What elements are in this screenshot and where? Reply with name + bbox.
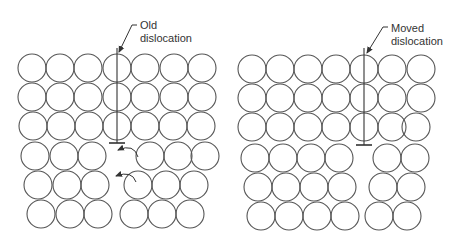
atom-circle — [322, 113, 350, 141]
atom-circle — [275, 202, 303, 230]
atom-circle — [373, 144, 401, 172]
atom-circle — [393, 202, 421, 230]
atom-circle — [244, 173, 272, 201]
atom-circle — [378, 84, 406, 112]
atom-circle — [56, 200, 84, 228]
atom-circle — [378, 55, 406, 83]
atom-circle — [269, 144, 297, 172]
atom-circle — [18, 83, 46, 111]
atom-circle — [294, 113, 322, 141]
atom-circle — [131, 83, 159, 111]
atom-circle — [148, 200, 176, 228]
atom-circle — [74, 83, 102, 111]
atom-circle — [328, 173, 356, 201]
atom-circle — [136, 142, 164, 170]
old-label-line1: Old — [140, 19, 192, 32]
atom-circle — [46, 83, 74, 111]
leader-arrow-icon — [367, 27, 388, 53]
atom-circle — [164, 142, 192, 170]
atom-circle — [27, 200, 55, 228]
atom-circle — [241, 144, 269, 172]
atom-circle — [238, 84, 266, 112]
atom-circle — [84, 200, 112, 228]
atom-circle — [160, 83, 188, 111]
atom-circle — [266, 55, 294, 83]
atom-circle — [19, 112, 47, 140]
atom-circle — [266, 84, 294, 112]
atom-circle — [187, 112, 215, 140]
moved-label-line1: Moved — [391, 22, 443, 35]
atom-circle — [325, 144, 353, 172]
atom-circle — [266, 113, 294, 141]
moved-label-line2: dislocation — [391, 35, 443, 48]
atom-circle — [81, 171, 109, 199]
atom-circle — [159, 112, 187, 140]
atom-circle — [247, 202, 275, 230]
atom-circle — [303, 202, 331, 230]
atom-circle — [297, 144, 325, 172]
atom-circle — [53, 171, 81, 199]
moved-dislocation-panel — [238, 27, 435, 230]
atom-circle — [294, 55, 322, 83]
atom-circle — [24, 171, 52, 199]
atom-circle — [397, 173, 425, 201]
atom-circle — [176, 200, 204, 228]
curved-arrow-icon — [118, 148, 138, 157]
atom-circle — [322, 55, 350, 83]
atom-circle — [180, 171, 208, 199]
atom-circle — [188, 54, 216, 82]
atom-circle — [191, 142, 219, 170]
atom-circle — [78, 142, 106, 170]
atom-circle — [131, 112, 159, 140]
atom-circle — [407, 84, 435, 112]
atom-circle — [152, 171, 180, 199]
moved-dislocation-label: Moved dislocation — [391, 22, 443, 48]
atom-circle — [365, 202, 393, 230]
atom-circle — [124, 171, 152, 199]
atom-circle — [188, 83, 216, 111]
atom-circle — [21, 142, 49, 170]
atom-circle — [294, 84, 322, 112]
atom-circle — [18, 54, 46, 82]
old-dislocation-panel — [18, 25, 219, 228]
atom-circle — [238, 113, 266, 141]
atom-circle — [407, 55, 435, 83]
atom-circle — [300, 173, 328, 201]
atom-circle — [50, 142, 78, 170]
atom-circle — [369, 173, 397, 201]
atom-circle — [75, 112, 103, 140]
atom-circle — [322, 84, 350, 112]
atom-circle — [160, 54, 188, 82]
old-label-line2: dislocation — [140, 32, 192, 45]
atom-circle — [46, 54, 74, 82]
atom-circle — [131, 54, 159, 82]
leader-arrow-icon — [119, 25, 137, 52]
atom-circle — [331, 202, 359, 230]
old-dislocation-label: Old dislocation — [140, 19, 192, 45]
atom-circle — [272, 173, 300, 201]
atom-circle — [120, 200, 148, 228]
atom-circle — [47, 112, 75, 140]
atom-circle — [74, 54, 102, 82]
atom-circle — [238, 55, 266, 83]
atom-circle — [401, 144, 429, 172]
